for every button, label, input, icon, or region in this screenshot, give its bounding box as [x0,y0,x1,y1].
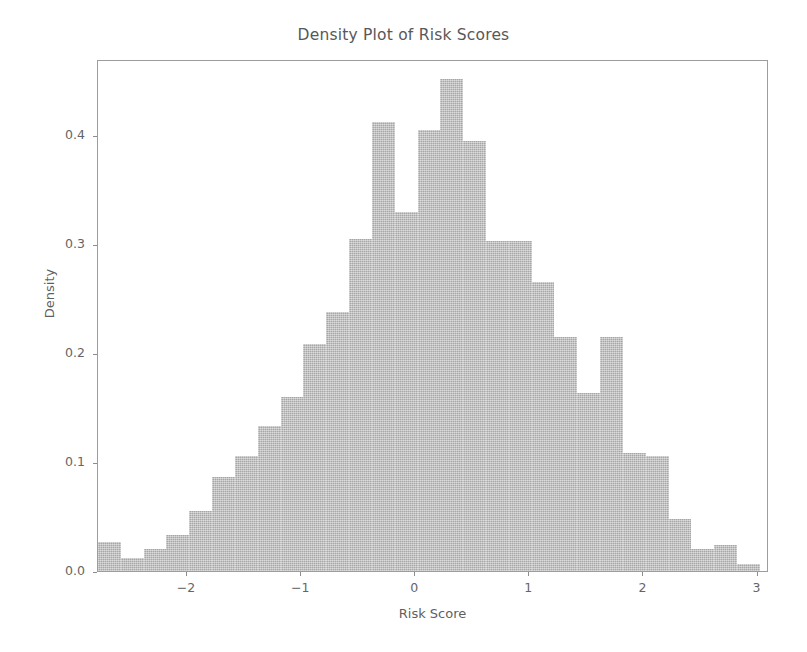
histogram-bar [669,519,692,571]
x-axis-tick [528,572,529,576]
histogram-bar [189,511,212,571]
x-axis-tick [300,572,301,576]
chart-title: Density Plot of Risk Scores [0,26,807,44]
x-axis-tick-label: 3 [737,580,777,595]
histogram-bar [691,549,714,571]
y-axis-tick-label: 0.4 [65,127,85,142]
histogram-bar [554,337,577,571]
histogram-bar [303,344,326,571]
x-axis-tick-label: −2 [166,580,206,595]
histogram-bar [326,312,349,571]
histogram-bar [235,456,258,571]
histogram-bar [623,453,646,571]
histogram-bar [281,397,304,571]
y-axis-tick-label: 0.0 [65,563,85,578]
histogram-bar [372,122,395,571]
x-axis-tick [642,572,643,576]
histogram-bar [258,426,281,571]
histogram-bar [646,456,669,571]
x-axis-label: Risk Score [97,606,768,621]
y-axis-tick-label: 0.1 [65,454,85,469]
histogram-bar [486,241,509,571]
y-axis-tick-label: 0.2 [65,345,85,360]
histogram-bar [440,79,463,571]
x-axis-tick [757,572,758,576]
y-axis-label: Density [42,234,57,354]
histogram-bar [463,141,486,571]
histogram-bar [144,549,167,571]
y-axis-tick-label: 0.3 [65,236,85,251]
histogram-bars [98,61,767,571]
y-axis-tick [93,354,97,355]
x-axis-tick-label: 2 [622,580,662,595]
histogram-bar [98,542,121,571]
plot-area [97,60,768,572]
histogram-bar [600,337,623,571]
histogram-bar [737,564,760,571]
x-axis-tick [414,572,415,576]
histogram-bar [577,393,600,571]
histogram-bar [714,545,737,571]
histogram-bar [212,477,235,571]
y-axis-tick [93,245,97,246]
histogram-bar [532,282,555,571]
x-axis-tick-label: −1 [280,580,320,595]
histogram-bar [166,535,189,571]
y-axis-tick [93,136,97,137]
histogram-bar [509,241,532,571]
x-axis-tick-label: 1 [508,580,548,595]
x-axis-tick [186,572,187,576]
histogram-bar [395,212,418,571]
histogram-bar [349,239,372,571]
histogram-bar [418,130,441,571]
x-axis-tick-label: 0 [394,580,434,595]
y-axis-tick [93,463,97,464]
y-axis-tick [93,572,97,573]
figure: Density Plot of Risk Scores 0.00.10.20.3… [0,0,807,652]
histogram-bar [121,558,144,571]
